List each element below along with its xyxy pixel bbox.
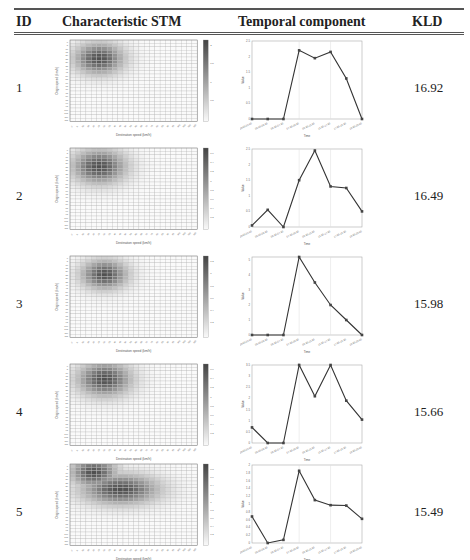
svg-text:0: 0 (67, 465, 69, 467)
svg-text:1.2: 1.2 (210, 493, 214, 496)
svg-text:100: 100 (177, 447, 182, 452)
svg-text:1.8: 1.8 (246, 471, 250, 475)
svg-text:3: 3 (248, 288, 250, 292)
svg-text:35: 35 (66, 173, 69, 175)
svg-text:1.5: 1.5 (246, 408, 250, 412)
svg-text:10: 10 (66, 264, 69, 266)
svg-text:1.5: 1.5 (246, 178, 250, 182)
svg-text:70: 70 (145, 448, 149, 452)
svg-text:0.8: 0.8 (246, 510, 250, 514)
svg-text:09:30-15:30: 09:30-15:30 (302, 446, 316, 455)
svg-text:0: 0 (67, 257, 69, 259)
svg-text:40: 40 (66, 176, 69, 178)
svg-text:90: 90 (66, 426, 69, 428)
svg-text:30: 30 (66, 61, 69, 63)
row-id: 3 (16, 296, 23, 312)
svg-text:80: 80 (155, 448, 159, 452)
svg-text:105: 105 (182, 123, 187, 128)
svg-text:1: 1 (248, 419, 250, 423)
svg-text:1: 1 (248, 502, 250, 506)
svg-text:1.2: 1.2 (210, 386, 214, 389)
svg-text:85: 85 (66, 207, 69, 209)
svg-text:90: 90 (166, 124, 170, 128)
svg-text:75: 75 (66, 308, 69, 310)
svg-text:25: 25 (66, 58, 69, 60)
svg-text:10: 10 (81, 448, 85, 452)
svg-text:95: 95 (171, 124, 175, 128)
svg-text:Destination speed (km/h): Destination speed (km/h) (116, 241, 151, 245)
svg-text:Time: Time (304, 134, 311, 138)
svg-text:1.5: 1.5 (210, 62, 214, 65)
svg-text:1.4: 1.4 (246, 486, 250, 490)
svg-text:3: 3 (248, 374, 250, 378)
svg-text:90: 90 (166, 232, 170, 236)
svg-text:80: 80 (66, 519, 69, 521)
row-kld: 16.49 (414, 188, 443, 204)
svg-text:85: 85 (66, 523, 69, 525)
svg-text:80: 80 (66, 203, 69, 205)
svg-text:80: 80 (155, 340, 159, 344)
svg-text:90: 90 (66, 210, 69, 212)
row-kld: 16.92 (414, 80, 443, 96)
svg-text:17:30-19:30: 17:30-19:30 (333, 122, 347, 131)
svg-text:65: 65 (139, 548, 143, 552)
svg-text:75: 75 (66, 416, 69, 418)
svg-text:2.5: 2.5 (246, 39, 250, 43)
svg-text:70: 70 (66, 88, 69, 90)
svg-text:1.6: 1.6 (210, 368, 214, 371)
svg-text:85: 85 (161, 340, 165, 344)
stm-heatmap: 1.61.41.210.80.60.40.2Destination speed … (52, 146, 222, 246)
svg-text:19:30-22:00: 19:30-22:00 (349, 446, 363, 455)
svg-text:3.5: 3.5 (246, 363, 250, 367)
svg-text:2: 2 (248, 163, 250, 167)
svg-text:35: 35 (108, 448, 112, 452)
svg-text:09:30-15:30: 09:30-15:30 (302, 122, 316, 131)
svg-text:60: 60 (134, 340, 138, 344)
svg-text:22:00-04:00: 22:00-04:00 (240, 122, 253, 131)
svg-text:06:30-07:30: 06:30-07:30 (270, 230, 284, 239)
svg-text:90: 90 (66, 318, 69, 320)
svg-text:100: 100 (177, 547, 182, 552)
svg-text:55: 55 (66, 502, 69, 504)
svg-text:15: 15 (66, 267, 69, 269)
svg-text:15: 15 (66, 51, 69, 53)
svg-text:85: 85 (66, 315, 69, 317)
svg-text:110: 110 (65, 116, 69, 118)
svg-text:55: 55 (66, 402, 69, 404)
svg-text:80: 80 (155, 232, 159, 236)
svg-text:55: 55 (66, 294, 69, 296)
svg-text:45: 45 (66, 495, 69, 497)
svg-text:Value: Value (241, 400, 245, 408)
svg-text:115: 115 (65, 227, 69, 229)
svg-text:1: 1 (248, 86, 250, 90)
svg-text:1.2: 1.2 (246, 494, 250, 498)
svg-text:Destination speed (km/h): Destination speed (km/h) (116, 457, 151, 461)
svg-text:1.6: 1.6 (210, 476, 214, 479)
svg-text:115: 115 (65, 443, 69, 445)
svg-text:25: 25 (66, 482, 69, 484)
svg-text:50: 50 (66, 499, 69, 501)
svg-text:06:00-06:30: 06:00-06:30 (255, 338, 269, 347)
svg-text:55: 55 (129, 548, 133, 552)
svg-text:Time: Time (304, 350, 311, 354)
temporal-line-chart: 00.511.522.533.522:00-04:0006:00-06:3006… (240, 362, 400, 466)
svg-text:50: 50 (66, 75, 69, 77)
svg-text:110: 110 (187, 547, 191, 551)
svg-text:45: 45 (66, 395, 69, 397)
svg-text:110: 110 (65, 224, 69, 226)
svg-text:06:00-06:30: 06:00-06:30 (255, 446, 269, 455)
svg-text:22:00-04:00: 22:00-04:00 (240, 230, 253, 239)
svg-text:105: 105 (182, 231, 187, 236)
stm-heatmap: 1.61.41.210.80.60.40.2Destination speed … (52, 362, 222, 462)
table-row: 5 15.491.81.61.41.210.80.60.40.2Destinat… (0, 462, 470, 560)
table-row: 3 15.981.210.80.60.40.2Destination speed… (0, 254, 470, 358)
svg-text:0.6: 0.6 (210, 198, 214, 201)
svg-text:0.8: 0.8 (210, 405, 214, 408)
svg-text:2: 2 (248, 396, 250, 400)
svg-text:17:30-19:30: 17:30-19:30 (333, 230, 347, 239)
svg-text:15: 15 (86, 340, 90, 344)
svg-text:1.6: 1.6 (210, 152, 214, 155)
svg-text:100: 100 (177, 339, 182, 344)
svg-text:100: 100 (177, 231, 182, 236)
svg-text:45: 45 (118, 548, 122, 552)
